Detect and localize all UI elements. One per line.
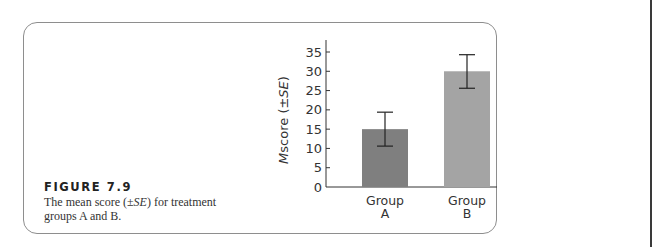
y-tick-label: 20	[305, 102, 322, 117]
y-tick-label: 25	[305, 83, 322, 98]
caption-se: SE	[134, 195, 147, 209]
figure-caption-text: The mean score (±SE) for treatment group…	[44, 195, 244, 223]
category-label: A	[381, 206, 390, 221]
caption-part: The mean score (±	[44, 195, 134, 209]
category-label: B	[463, 206, 472, 221]
x-axis-labels: GroupAGroupB	[366, 193, 486, 221]
y-tick-label: 10	[305, 141, 322, 156]
y-axis-label: Mscore (±SE)	[276, 76, 291, 164]
y-tick-label: 15	[305, 122, 322, 137]
bars	[362, 55, 490, 187]
y-tick-label: 5	[314, 160, 322, 175]
figure-caption: FIGURE 7.9 The mean score (±SE) for trea…	[44, 181, 244, 223]
y-tick-label: 0	[314, 180, 322, 195]
y-tick-label: 35	[305, 45, 322, 60]
y-tick-label: 30	[305, 64, 322, 79]
figure-label: FIGURE 7.9	[44, 181, 244, 194]
